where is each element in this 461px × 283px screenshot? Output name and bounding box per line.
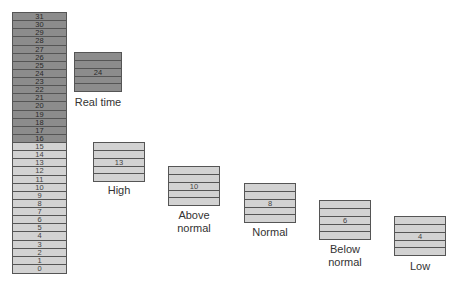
priority-level-15: 15 [13, 143, 66, 151]
priority-level-2: 2 [13, 249, 66, 257]
priority-level-30: 30 [13, 21, 66, 29]
priority-level-21: 21 [13, 94, 66, 102]
base-priority-value: 24 [75, 69, 121, 77]
priority-level-0: 0 [13, 265, 66, 273]
priority-class-block-below-normal: 6 [319, 200, 371, 240]
priority-level-18: 18 [13, 119, 66, 127]
priority-level-23: 23 [13, 78, 66, 86]
priority-level-31: 31 [13, 13, 66, 21]
priority-level-24: 24 [13, 70, 66, 78]
priority-level-9: 9 [13, 192, 66, 200]
base-priority-value: 6 [320, 217, 370, 225]
base-priority-value: 8 [245, 200, 295, 208]
priority-class-label-above-normal: Above normal [159, 209, 229, 235]
base-priority-value: 13 [94, 159, 144, 167]
priority-class-block-normal: 8 [244, 183, 296, 223]
priority-class-label-realtime: Real time [63, 96, 133, 109]
priority-level-20: 20 [13, 102, 66, 110]
priority-level-8: 8 [13, 200, 66, 208]
base-priority-value: 4 [395, 233, 445, 241]
priority-class-block-realtime: 24 [74, 52, 122, 92]
priority-level-19: 19 [13, 111, 66, 119]
priority-level-22: 22 [13, 86, 66, 94]
priority-level-1: 1 [13, 257, 66, 265]
priority-class-label-below-normal: Below normal [310, 243, 380, 269]
base-priority-value: 10 [169, 183, 219, 191]
priority-level-13: 13 [13, 159, 66, 167]
priority-class-label-low: Low [385, 260, 455, 273]
priority-level-12: 12 [13, 167, 66, 175]
priority-level-26: 26 [13, 54, 66, 62]
priority-level-14: 14 [13, 151, 66, 159]
priority-class-block-above-normal: 10 [168, 166, 220, 206]
priority-level-29: 29 [13, 29, 66, 37]
priority-level-column: 31 30 29 28 27 26 25 24 23 22 21 20 19 1… [12, 12, 67, 274]
priority-level-25: 25 [13, 62, 66, 70]
priority-level-17: 17 [13, 127, 66, 135]
priority-level-6: 6 [13, 216, 66, 224]
priority-class-label-high: High [84, 184, 154, 197]
priority-level-4: 4 [13, 232, 66, 240]
priority-level-28: 28 [13, 37, 66, 45]
priority-level-10: 10 [13, 184, 66, 192]
priority-class-block-low: 4 [394, 216, 446, 256]
priority-class-label-normal: Normal [235, 226, 305, 239]
priority-level-16: 16 [13, 135, 66, 143]
priority-level-27: 27 [13, 46, 66, 54]
priority-level-11: 11 [13, 176, 66, 184]
priority-level-3: 3 [13, 241, 66, 249]
priority-level-7: 7 [13, 208, 66, 216]
priority-class-block-high: 13 [93, 142, 145, 182]
priority-level-5: 5 [13, 224, 66, 232]
